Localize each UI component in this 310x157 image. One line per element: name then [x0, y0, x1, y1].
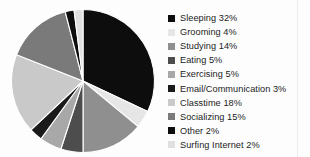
legend-item-label: Sleeping 32% — [180, 13, 237, 23]
legend-item-label: Classtime 18% — [180, 98, 242, 108]
legend-color-swatch-icon — [168, 57, 175, 64]
legend-item-label: Socializing 15% — [180, 112, 246, 122]
legend-item[interactable]: Exercising 5% — [168, 67, 304, 81]
legend-item[interactable]: Eating 5% — [168, 53, 304, 67]
pie-chart-svg — [10, 8, 156, 154]
legend-color-swatch-icon — [168, 85, 175, 92]
legend-color-swatch-icon — [168, 113, 175, 120]
legend-item-label: Studying 14% — [180, 41, 237, 51]
legend-item[interactable]: Email/Communication 3% — [168, 81, 304, 95]
legend-item[interactable]: Grooming 4% — [168, 25, 304, 39]
legend-item[interactable]: Other 2% — [168, 124, 304, 138]
legend-item[interactable]: Surfing Internet 2% — [168, 138, 304, 152]
pie-slice-group — [12, 10, 155, 153]
legend-color-swatch-icon — [168, 127, 175, 134]
legend-item-label: Grooming 4% — [180, 27, 237, 37]
legend-item[interactable]: Classtime 18% — [168, 96, 304, 110]
legend-item-label: Eating 5% — [180, 55, 222, 65]
legend-color-swatch-icon — [168, 71, 175, 78]
legend-item-label: Other 2% — [180, 126, 219, 136]
legend-color-swatch-icon — [168, 43, 175, 50]
legend-item-label: Exercising 5% — [180, 69, 239, 79]
chart-legend: Sleeping 32%Grooming 4%Studying 14%Eatin… — [168, 11, 304, 152]
legend-color-swatch-icon — [168, 15, 175, 22]
page-divider-rule — [297, 0, 298, 157]
legend-item[interactable]: Studying 14% — [168, 39, 304, 53]
legend-color-swatch-icon — [168, 99, 175, 106]
legend-item-label: Surfing Internet 2% — [180, 140, 260, 150]
legend-item[interactable]: Socializing 15% — [168, 110, 304, 124]
legend-item[interactable]: Sleeping 32% — [168, 11, 304, 25]
legend-item-label: Email/Communication 3% — [180, 84, 286, 94]
chart-page: Sleeping 32%Grooming 4%Studying 14%Eatin… — [0, 0, 310, 157]
legend-color-swatch-icon — [168, 141, 175, 148]
legend-color-swatch-icon — [168, 29, 175, 36]
pie-chart — [10, 8, 156, 154]
